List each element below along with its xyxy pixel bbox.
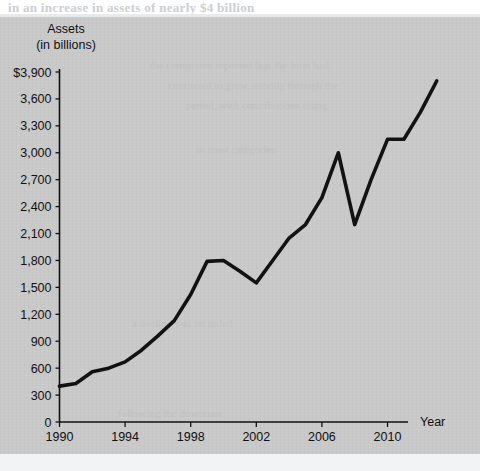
x-axis-tick-label: 2006: [308, 430, 336, 444]
y-axis-tick-label: 600: [31, 362, 52, 376]
assets-line-chart: 03006009001,2001,5001,8002,1002,4002,700…: [0, 17, 480, 454]
y-axis-tick-label: 3,000: [20, 146, 51, 160]
assets-series-line: [60, 81, 437, 386]
page-bleed-text-top: in an increase in assets of nearly $4 bi…: [0, 0, 480, 14]
x-axis-tick-label: 2002: [242, 430, 270, 444]
page-bottom-strip: [0, 454, 480, 471]
y-axis-tick-label: 1,500: [20, 281, 51, 295]
chart-subtitle: (in billions): [36, 38, 96, 52]
chart-title: Assets: [47, 22, 85, 36]
y-axis-tick-labels: 03006009001,2001,5001,8002,1002,4002,700…: [13, 66, 51, 430]
y-axis-tick-label: 0: [45, 416, 52, 430]
y-axis-tick-label: 1,800: [20, 254, 51, 268]
y-axis-tick-label: 3,300: [20, 119, 51, 133]
y-axis-tick-label: 2,400: [20, 200, 51, 214]
x-axis-tick-label: 1998: [177, 430, 205, 444]
x-axis-tick-labels: 199019941998200220062010: [46, 430, 402, 444]
x-axis-tick-label: 1990: [46, 430, 74, 444]
y-axis-tick-label: 2,700: [20, 173, 51, 187]
x-axis-tick-label: 2010: [374, 430, 402, 444]
y-axis-tick-label: 2,100: [20, 227, 51, 241]
y-axis-tick-label: 900: [31, 335, 52, 349]
x-axis-title: Year: [420, 415, 445, 429]
y-axis-tick-label: 1,200: [20, 308, 51, 322]
x-axis-tick-label: 1994: [111, 430, 139, 444]
y-axis-tick-label: 300: [31, 389, 52, 403]
y-axis-tick-label: $3,900: [13, 66, 51, 80]
y-axis-tick-label: 3,600: [20, 92, 51, 106]
